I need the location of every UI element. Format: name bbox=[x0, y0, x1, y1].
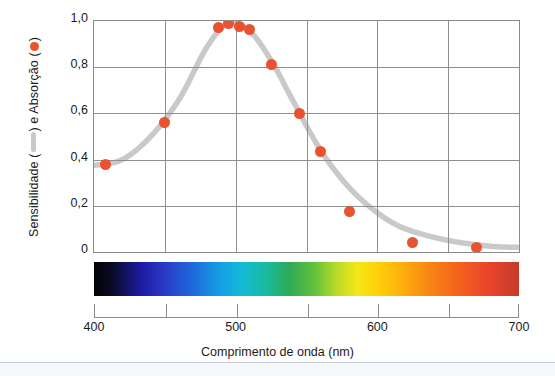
x-tick-label: 500 bbox=[206, 320, 266, 334]
legend-line-swatch bbox=[31, 133, 36, 153]
y-tick-label: 0,8 bbox=[48, 57, 88, 71]
data-point bbox=[471, 242, 482, 253]
x-tick-mark bbox=[308, 304, 309, 318]
data-point bbox=[266, 59, 277, 70]
y-tick-label: 0,2 bbox=[48, 196, 88, 210]
y-tick-label: 1,0 bbox=[48, 11, 88, 25]
y-axis-label-suffix: ) bbox=[27, 37, 41, 41]
data-point bbox=[244, 24, 255, 35]
gridline-vertical bbox=[307, 21, 308, 252]
legend-dot-swatch bbox=[30, 42, 39, 51]
data-point bbox=[344, 206, 355, 217]
footer-band bbox=[0, 362, 555, 376]
data-point bbox=[294, 108, 305, 119]
x-tick-mark bbox=[449, 304, 450, 318]
x-tick-label: 400 bbox=[64, 320, 124, 334]
x-axis-label: Comprimento de onda (nm) bbox=[0, 345, 555, 359]
gridline-vertical bbox=[448, 21, 449, 252]
y-tick-label: 0,6 bbox=[48, 103, 88, 117]
data-point bbox=[100, 159, 111, 170]
x-tick-mark bbox=[237, 304, 238, 318]
gridline-vertical bbox=[377, 21, 378, 252]
y-axis-label: Sensibilidade () e Absorção () bbox=[27, 7, 41, 267]
plot-area bbox=[93, 20, 520, 253]
y-tick-label: 0 bbox=[48, 242, 88, 256]
x-tick-mark bbox=[378, 304, 379, 318]
y-tick-label: 0,4 bbox=[48, 150, 88, 164]
x-tick-label: 600 bbox=[347, 320, 407, 334]
gridline-vertical bbox=[165, 21, 166, 252]
visible-spectrum-bar bbox=[94, 262, 519, 296]
x-tick-mark bbox=[166, 304, 167, 318]
y-axis-label-prefix: Sensibilidade ( bbox=[27, 154, 41, 238]
x-tick-label: 700 bbox=[489, 320, 549, 334]
x-axis-ruler bbox=[94, 304, 519, 318]
y-axis-label-middle: ) e Absorção ( bbox=[27, 52, 41, 131]
spectral-sensitivity-chart: Sensibilidade () e Absorção () 00,20,40,… bbox=[0, 0, 555, 376]
gridline-vertical bbox=[236, 21, 237, 252]
